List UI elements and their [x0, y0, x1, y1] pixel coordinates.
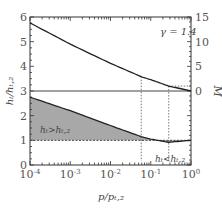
region-below-label: hₜ<hₜ,₂	[155, 154, 185, 164]
shaded-region	[30, 97, 191, 142]
y-right-tick-label: 10	[195, 36, 209, 49]
y-left-tick-label: 4	[20, 60, 27, 73]
y-right-axis-label: M	[211, 84, 222, 97]
gamma-annotation: γ = 1.4	[160, 26, 197, 37]
y-left-tick-label: 5	[20, 36, 27, 49]
y-left-tick-label: 2	[20, 110, 27, 123]
chart: 012345605101510-410-310-210-1100γ = 1.4h…	[0, 0, 222, 210]
x-tick-label: 10-2	[100, 168, 121, 181]
x-tick-label: 10-4	[20, 168, 41, 181]
region-above-label: hₜ>hₜ,₂	[40, 125, 70, 135]
y-right-tick-label: 15	[195, 11, 209, 24]
x-tick-label: 10-3	[60, 168, 81, 181]
x-axis-label: p/pₜ,₂	[98, 191, 124, 202]
y-left-tick-label: 1	[20, 134, 27, 147]
x-tick-label: 100	[182, 168, 200, 181]
x-tick-label: 10-1	[140, 168, 161, 181]
y-left-tick-label: 3	[20, 85, 27, 98]
y-right-tick-label: 5	[195, 60, 202, 73]
y-right-tick-label: 0	[195, 85, 202, 98]
y-left-tick-label: 6	[20, 11, 27, 24]
y-left-axis-label: hₜ/hₜ,₂	[4, 77, 15, 105]
